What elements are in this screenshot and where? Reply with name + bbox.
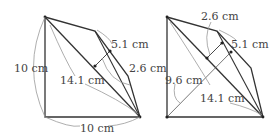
left-label-side: 10 cm — [14, 62, 49, 75]
left-label-outer: 5.1 cm — [111, 38, 149, 51]
right-label-diagonal: 14.1 cm — [200, 92, 245, 105]
right-height-arrow — [207, 43, 222, 58]
left-figure: 10 cm 10 cm 14.1 cm 5.1 cm 2.6 cm — [14, 16, 167, 135]
right-label-perp: 9.6 cm — [165, 74, 203, 87]
right-label-outer: 5.1 cm — [231, 38, 269, 51]
diagram-canvas: 10 cm 10 cm 14.1 cm 5.1 cm 2.6 cm 2.6 cm… — [0, 0, 278, 139]
left-diagonal — [45, 17, 140, 117]
left-label-bottom: 10 cm — [80, 122, 115, 135]
left-label-diagonal: 14.1 cm — [60, 74, 105, 87]
left-label-inner: 2.6 cm — [129, 62, 167, 75]
right-label-inner: 2.6 cm — [201, 10, 239, 23]
right-figure: 2.6 cm 5.1 cm 9.6 cm 14.1 cm — [165, 10, 269, 119]
